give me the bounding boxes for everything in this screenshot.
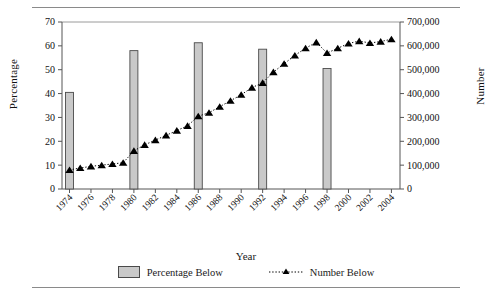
x-axis-tick-label: 1988: [204, 192, 225, 213]
chart-legend: Percentage Below Number Below: [0, 266, 492, 278]
x-axis-title: Year: [0, 250, 492, 262]
x-axis-tick-label: 2004: [376, 192, 397, 213]
bar-percentage-below: [130, 51, 138, 189]
y-axis-left-tick-label: 10: [45, 160, 55, 171]
x-axis-tick-label: 1994: [269, 192, 290, 213]
marker-number-below: [108, 160, 116, 167]
bar-swatch-icon: [118, 266, 140, 278]
y-axis-right-tick-label: 0: [407, 183, 412, 194]
marker-number-below: [205, 109, 213, 116]
x-axis-tick-label: 2000: [333, 192, 354, 213]
y-axis-left-tick-label: 40: [45, 88, 55, 99]
marker-number-below: [226, 97, 234, 104]
y-axis-left-tick-label: 20: [45, 136, 55, 147]
marker-number-below: [355, 38, 363, 45]
x-axis-tick-label: 2002: [354, 192, 375, 213]
marker-number-below: [216, 103, 224, 110]
y-axis-right-tick-label: 100,000: [407, 160, 440, 171]
y-axis-left-tick-label: 60: [45, 40, 55, 51]
x-axis-tick-label: 1980: [118, 192, 139, 213]
marker-number-below: [87, 163, 95, 170]
y-axis-left-title: Percentage: [7, 44, 19, 124]
y-axis-right-title: Number: [474, 46, 486, 126]
y-axis-left-tick-label: 50: [45, 64, 55, 75]
marker-number-below: [301, 45, 309, 52]
x-axis-tick-label: 1986: [183, 192, 204, 213]
marker-number-below: [269, 69, 277, 76]
y-axis-right-tick-label: 300,000: [407, 112, 440, 123]
chart-plot-area: 0102030405060700100,000200,000300,000400…: [0, 14, 492, 214]
dotted-triangle-line-icon: [269, 267, 303, 277]
legend-item-number-below: Number Below: [269, 267, 374, 278]
y-axis-left-tick-label: 0: [50, 183, 55, 194]
marker-number-below: [162, 132, 170, 139]
y-axis-right-tick-label: 200,000: [407, 136, 440, 147]
line-number-below: [70, 39, 392, 170]
x-axis-tick-label: 1974: [54, 192, 75, 213]
y-axis-right-tick-label: 500,000: [407, 64, 440, 75]
y-axis-right-tick-label: 700,000: [407, 16, 440, 27]
marker-number-below: [183, 122, 191, 129]
x-axis-tick-label: 1978: [97, 192, 118, 213]
legend-label-percentage-below: Percentage Below: [147, 267, 223, 278]
bar-percentage-below: [66, 92, 74, 189]
x-axis-tick-label: 1992: [247, 192, 268, 213]
dual-axis-chart: 0102030405060700100,000200,000300,000400…: [0, 14, 492, 214]
figure-bottom-rule: [32, 287, 460, 288]
marker-number-below: [173, 127, 181, 134]
x-axis-tick-label: 1990: [226, 192, 247, 213]
marker-number-below: [344, 40, 352, 47]
y-axis-right-tick-label: 600,000: [407, 40, 440, 51]
x-axis-tick-label: 1982: [140, 192, 161, 213]
y-axis-right-tick-label: 400,000: [407, 88, 440, 99]
bar-percentage-below: [259, 49, 267, 189]
y-axis-left-tick-label: 70: [45, 16, 55, 27]
x-axis-tick-label: 1996: [290, 192, 311, 213]
x-axis-tick-label: 1976: [75, 192, 96, 213]
marker-number-below: [366, 39, 374, 46]
marker-number-below: [119, 159, 127, 166]
figure-top-rule: [32, 7, 460, 8]
marker-number-below: [387, 36, 395, 43]
x-axis-tick-label: 1998: [311, 192, 332, 213]
figure-container: 0102030405060700100,000200,000300,000400…: [0, 0, 492, 301]
bar-percentage-below: [323, 69, 331, 189]
marker-number-below: [334, 45, 342, 52]
legend-label-number-below: Number Below: [310, 267, 374, 278]
marker-number-below: [248, 84, 256, 91]
marker-number-below: [140, 141, 148, 148]
marker-number-below: [312, 39, 320, 46]
marker-number-below: [151, 137, 159, 144]
x-axis-tick-label: 1984: [161, 192, 182, 213]
legend-item-percentage-below: Percentage Below: [118, 266, 223, 278]
y-axis-left-tick-label: 30: [45, 112, 55, 123]
marker-number-below: [280, 60, 288, 67]
